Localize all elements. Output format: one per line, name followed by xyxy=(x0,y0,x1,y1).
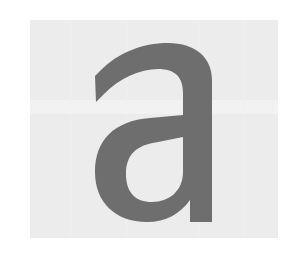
letter-a-glyph-icon xyxy=(30,20,278,238)
glyph-specimen-panel xyxy=(30,20,278,238)
glyph-stage xyxy=(30,20,278,238)
specimen-canvas xyxy=(0,0,300,256)
